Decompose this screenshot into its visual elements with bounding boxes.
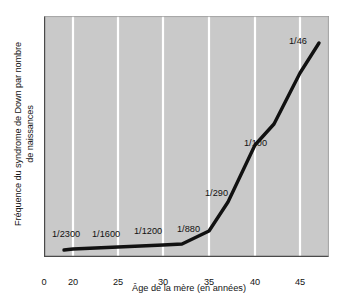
y-axis-title-container: Fréquence du syndrome de Down par nombre…	[0, 0, 44, 262]
annotation-1-46: 1/46	[289, 36, 307, 46]
x-axis-title: Âge de la mère (en années)	[44, 283, 334, 293]
plot-svg	[44, 16, 329, 257]
down-syndrome-frequency-chart: Fréquence du syndrome de Down par nombre…	[0, 0, 342, 306]
y-axis-title: Fréquence du syndrome de Down par nombre…	[12, 13, 42, 255]
annotation-1-880: 1/880	[177, 224, 200, 234]
annotation-1-2300: 1/2300	[52, 229, 80, 239]
annotation-1-1200: 1/1200	[134, 226, 162, 236]
annotation-1-1600: 1/1600	[92, 229, 120, 239]
plot-background	[44, 16, 329, 257]
plot-area: 1/2300 1/1600 1/1200 1/880 1/290 1/100 1…	[44, 16, 329, 257]
annotation-1-290: 1/290	[205, 188, 228, 198]
annotation-1-100: 1/100	[244, 138, 267, 148]
